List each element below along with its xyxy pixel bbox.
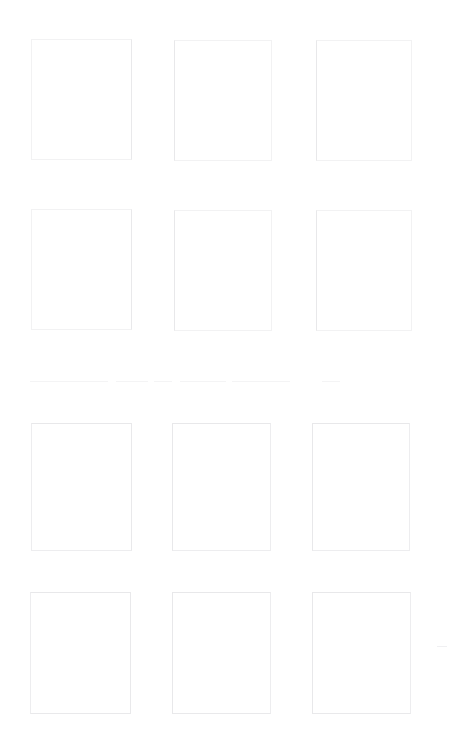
scanned-page — [0, 0, 461, 748]
grid-cell-r4c1 — [30, 592, 131, 714]
grid-cell-r4c3 — [312, 592, 411, 714]
grid-cell-r2c2 — [174, 210, 272, 331]
grid-cell-r3c2 — [172, 423, 271, 551]
grid-cell-r2c1 — [31, 209, 132, 330]
divider-rule — [30, 381, 340, 382]
grid-cell-r1c1 — [31, 39, 132, 160]
grid-cell-r3c3 — [312, 423, 410, 551]
grid-cell-r1c2 — [174, 40, 272, 161]
scan-artifact-dash — [437, 646, 447, 647]
grid-cell-r2c3 — [316, 210, 412, 331]
grid-cell-r1c3 — [316, 40, 412, 161]
grid-cell-r3c1 — [31, 423, 132, 551]
grid-cell-r4c2 — [172, 592, 271, 714]
